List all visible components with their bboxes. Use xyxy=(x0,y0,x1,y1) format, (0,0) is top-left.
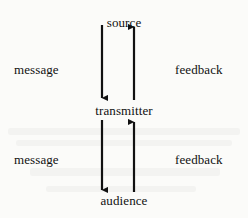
node-audience-label: audience xyxy=(101,193,148,208)
label-feedback-upper: feedback xyxy=(175,63,223,77)
node-source-label: source xyxy=(107,15,142,30)
node-source: source xyxy=(0,16,248,30)
node-audience: audience xyxy=(0,194,248,208)
label-message-upper: message xyxy=(14,63,59,77)
label-feedback-lower: feedback xyxy=(175,153,223,167)
node-transmitter-label: transmitter xyxy=(95,103,152,118)
node-transmitter: transmitter xyxy=(0,104,248,118)
communication-model-diagram: source transmitter audience message feed… xyxy=(0,0,248,218)
label-message-lower: message xyxy=(14,153,59,167)
